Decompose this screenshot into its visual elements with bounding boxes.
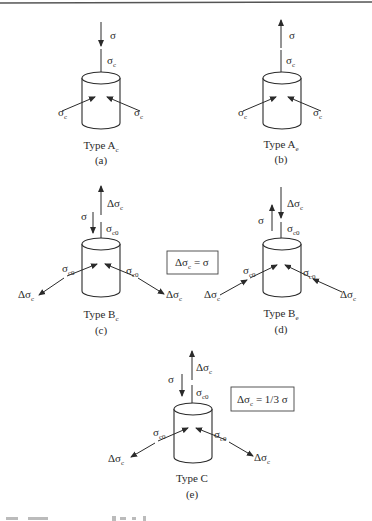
sigma-c-left-label: σc <box>238 106 247 121</box>
cylinder-d <box>263 238 301 297</box>
delta-sigma-left-arrow <box>39 278 64 295</box>
sigma-label: σ <box>81 210 87 222</box>
delta-sigma-left-label: Δσc <box>18 288 34 303</box>
panel-d: Δσc σ σc0 σc0 σc0 Δσc Δσc Type Be (d) <box>204 187 356 336</box>
panel-title: Type Ac <box>83 139 118 154</box>
stress-path-diagram: σ σc σc σc Type Ac (a) σ σc σc σc Type A… <box>0 0 372 521</box>
panel-tag: (c) <box>95 324 108 337</box>
sigma-label: σ <box>258 214 264 226</box>
delta-sigma-left-label: Δσc <box>204 288 220 303</box>
delta-sigma-right-label: Δσc <box>254 451 270 466</box>
sigma-c0-label: σc0 <box>196 386 209 401</box>
panel-c: Δσc σ σc0 σc0 σc0 Δσc Δσc Type Bc (c) <box>18 186 182 337</box>
sigma-label: σ <box>110 29 116 41</box>
cylinder-e <box>174 403 212 463</box>
sigma-c0-label: σc0 <box>106 222 119 237</box>
delta-sigma-left-arrow <box>220 280 247 295</box>
delta-sigma-label: Δσc <box>196 361 212 376</box>
panel-title: Type Be <box>263 307 298 322</box>
panel-title: Type Ae <box>263 138 298 153</box>
delta-sigma-right-label: Δσc <box>340 288 356 303</box>
sigma-c-label: σc <box>286 54 295 69</box>
panel-tag: (e) <box>186 488 199 501</box>
sigma-c0-right-label: σc0 <box>214 428 227 443</box>
panel-tag: (a) <box>95 154 108 167</box>
sigma-c0-left-label: σc0 <box>62 262 75 277</box>
delta-sigma-right-arrow <box>313 279 342 292</box>
panel-a: σ σc σc σc Type Ac (a) <box>58 22 143 167</box>
cutoff-caption-fragments <box>6 516 146 521</box>
delta-sigma-right-label: Δσc <box>166 288 182 303</box>
delta-sigma-label: Δσc <box>107 197 123 212</box>
sigma-label: σ <box>168 373 174 385</box>
sigma-c-left-label: σc <box>58 106 67 121</box>
panel-title: Type C <box>176 472 208 484</box>
delta-sigma-label: Δσc <box>287 197 303 212</box>
sigma-c0-right-label: σc0 <box>303 266 316 281</box>
panel-b: σ σc σc σc Type Ae (b) <box>238 20 322 166</box>
sigma-c0-left-label: σc0 <box>153 426 166 441</box>
delta-sigma-right-arrow <box>138 278 164 294</box>
panel-tag: (d) <box>275 323 288 336</box>
delta-sigma-left-label: Δσc <box>108 452 124 467</box>
delta-sigma-right-arrow <box>229 442 253 456</box>
sigma-c-right-label: σc <box>313 106 322 121</box>
delta-sigma-left-arrow <box>131 443 155 457</box>
panel-e: Δσc σ σc0 σc0 σc0 Δσc Δσc Type C (e) <box>108 351 270 501</box>
top-rule <box>0 2 372 3</box>
sigma-c0-left-label: σc0 <box>243 264 256 279</box>
sigma-c0-label: σc0 <box>287 222 300 237</box>
sigma-label: σ <box>289 29 295 41</box>
equation-box-delta-sigma-equals-sigma: Δσc = σ <box>167 251 218 274</box>
panel-title: Type Bc <box>83 308 118 323</box>
sigma-c-right-label: σc <box>134 106 143 121</box>
equation-box-delta-sigma-equals-third-sigma: Δσc = 1/3 σ <box>231 387 294 411</box>
sigma-c-label: σc <box>107 54 116 69</box>
sigma-c0-right-label: σc0 <box>126 264 139 279</box>
panel-tag: (b) <box>275 153 288 166</box>
